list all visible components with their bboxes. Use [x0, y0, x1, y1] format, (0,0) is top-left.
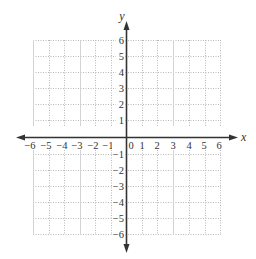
y-axis-down-arrow-icon: [124, 244, 130, 253]
x-tick-label: 4: [186, 140, 192, 151]
y-tick-label: −5: [113, 213, 124, 224]
x-tick-label: 3: [170, 140, 175, 151]
y-axis-label: y: [118, 9, 125, 23]
y-tick-label: 2: [119, 99, 124, 110]
x-axis-right-arrow-icon: [229, 135, 238, 141]
y-tick-label: −1: [113, 149, 124, 160]
y-tick-label: 4: [119, 67, 125, 78]
x-tick-label: 2: [154, 140, 159, 151]
x-tick-label: −2: [87, 140, 98, 151]
x-tick-label: −5: [40, 140, 51, 151]
y-tick-label: −6: [113, 229, 124, 240]
coordinate-plane: x y −6 −5 −4 −3 −2 −1 0 1 2 3 4 5 6 6 5 …: [0, 0, 256, 259]
x-tick-label: −4: [56, 140, 68, 151]
x-tick-label: 6: [216, 140, 221, 151]
x-axis-label: x: [240, 130, 247, 144]
y-tick-label: −2: [113, 165, 124, 176]
y-tick-label: 1: [119, 115, 124, 126]
x-tick-label: 5: [201, 140, 206, 151]
y-tick-label: 3: [119, 83, 124, 94]
y-tick-labels-positive: 6 5 4 3 2 1: [116, 34, 125, 126]
y-tick-label: −3: [113, 181, 124, 192]
x-tick-label-origin: 0: [128, 140, 133, 151]
y-tick-labels-negative: −1 −2 −3 −4 −5 −6: [112, 148, 125, 240]
x-tick-label: −3: [71, 140, 82, 151]
x-tick-label: 1: [139, 140, 144, 151]
y-tick-label: 6: [119, 35, 124, 46]
y-tick-label: 5: [119, 51, 124, 62]
x-tick-label: −6: [24, 140, 35, 151]
y-tick-label: −4: [113, 197, 125, 208]
